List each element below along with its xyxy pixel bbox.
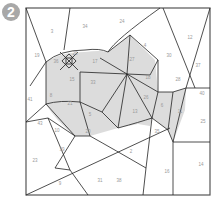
region-label: 4 [144, 43, 147, 48]
region-label: 40 [199, 91, 205, 96]
region-label: 9 [59, 181, 62, 186]
polygon-puzzle: 3 34 24 4 12 19 29 36 17 27 30 37 15 33 … [0, 0, 216, 199]
region-label: 17 [92, 59, 98, 64]
region-label: 14 [198, 162, 204, 167]
region-label: 20 [85, 129, 91, 134]
region-label: 19 [34, 53, 40, 58]
region-label: 25 [200, 119, 206, 124]
region-label: 37 [195, 63, 201, 68]
region-label: 2 [130, 149, 133, 154]
region-label: 15 [69, 77, 75, 82]
region-label: 36 [53, 59, 59, 64]
region-label: 11 [178, 109, 183, 114]
region-label: 41 [27, 97, 33, 102]
region-label: 38 [116, 178, 122, 183]
region-label: 10 [54, 128, 60, 133]
region-label: 23 [32, 158, 38, 163]
region-label: 16 [164, 169, 170, 174]
region-label: 24 [119, 19, 125, 24]
region-label: 26 [143, 95, 149, 100]
region-label: 12 [187, 35, 193, 40]
region-label: 35 [154, 129, 160, 134]
region-label: 18 [145, 75, 151, 80]
region-label: 43 [37, 121, 43, 126]
region-label: 39 [59, 147, 65, 152]
region-label: 34 [82, 24, 88, 29]
region-label: 13 [132, 109, 138, 114]
region-label: 30 [166, 53, 172, 58]
region-label: 28 [175, 77, 181, 82]
region-label: 21 [67, 101, 73, 106]
region-label: 29 [72, 51, 78, 56]
region-label: 33 [90, 80, 96, 85]
region-label: 3 [51, 29, 54, 34]
region-label: 31 [97, 178, 103, 183]
region-label: 27 [129, 57, 135, 62]
